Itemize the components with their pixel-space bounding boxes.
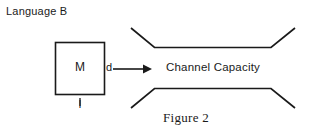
- channel-lower-boundary: [131, 89, 295, 109]
- right-arrow-icon: [143, 65, 152, 74]
- language-title: Language B: [6, 6, 67, 17]
- figure-container: Language B M l d Channel Capacity Figure…: [0, 0, 310, 134]
- arrow-distance-label: d: [106, 62, 112, 73]
- channel-upper-boundary: [131, 28, 295, 48]
- box-width-label: l: [55, 99, 105, 110]
- channel-capacity-label: Channel Capacity: [166, 62, 260, 74]
- message-box-symbol: M: [55, 61, 105, 73]
- diagram-vector-layer: [0, 0, 310, 134]
- figure-caption: Figure 2: [163, 111, 209, 124]
